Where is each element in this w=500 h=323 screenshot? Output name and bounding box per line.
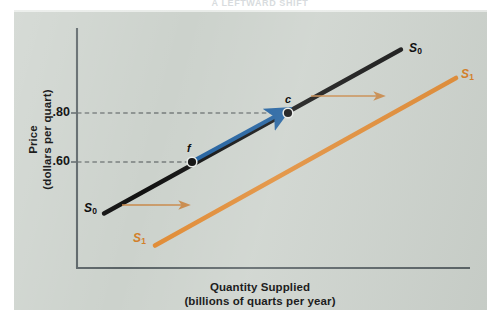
curve-label-s1-top-letter: S [461,67,469,81]
axis-group [71,28,470,269]
y-axis-label: Price (dollars per quart) [27,70,54,210]
curve-label-s1-top-subscript: 1 [469,72,474,82]
data-point-f[interactable] [186,156,197,167]
point-label-c: c [285,93,291,105]
gridline-group [77,113,292,162]
curve-label-s0-bottom: S0 [84,201,97,215]
curve-label-s0-top-letter: S [409,41,417,55]
y-axis-label-line1: Price [27,125,39,154]
curve-label-s0-bottom-letter: S [84,201,92,215]
curve-label-s0-top-subscript: 0 [417,46,422,56]
curve-label-s0-bottom-subscript: 0 [92,206,97,216]
curve-label-s0-top: S0 [409,41,422,55]
curve-label-s1-bottom-subscript: 1 [141,236,146,246]
movement-arrow-f-to-c [196,111,285,160]
curve-label-s1-bottom-letter: S [133,231,141,245]
supply-curve-figure: A LEFTWARD SHIFT [0,0,500,323]
data-point-c[interactable] [282,107,293,118]
x-axis-label-line2: (billions of quarts per year) [184,295,335,307]
x-axis-label: Quantity Supplied (billions of quarts pe… [150,281,370,308]
y-axis-label-line2: (dollars per quart) [40,89,52,189]
plot-canvas [0,0,500,323]
x-axis-label-line1: Quantity Supplied [210,281,310,293]
curve-label-s1-top: S1 [461,67,474,81]
point-label-f: f [187,142,191,154]
curve-label-s1-bottom: S1 [133,231,146,245]
